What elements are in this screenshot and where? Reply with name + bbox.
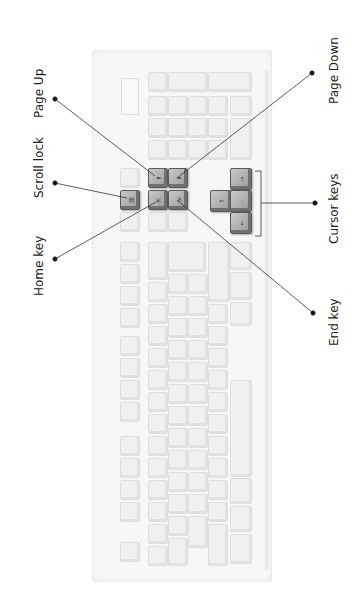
label-page-down: Page Down xyxy=(327,37,341,104)
label-home-key: Home key xyxy=(32,236,46,296)
label-page-up: Page Up xyxy=(32,69,46,118)
label-cursor-keys: Cursor keys xyxy=(327,173,341,244)
label-scroll-lock: Scroll lock xyxy=(32,137,46,198)
leader-lines xyxy=(0,0,351,608)
keyboard-diagram: ▥ ⇞ ⇟ ⇱ ⇲ → ↑ · ← xyxy=(0,0,351,608)
label-end-key: End key xyxy=(327,298,341,346)
